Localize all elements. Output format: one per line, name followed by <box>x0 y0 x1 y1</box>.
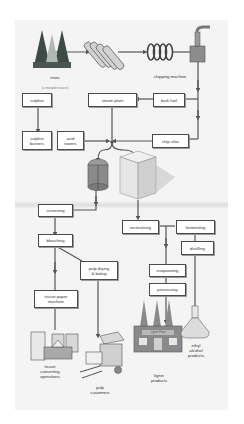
ethyl-alcohol-label: ethyl alcohol products <box>178 343 214 358</box>
digester-icon <box>88 159 108 191</box>
trees-note: (a renewable resource) <box>42 87 69 90</box>
node-chip-silos: chip silos <box>152 134 189 148</box>
node-fermenting: fermenting <box>176 220 215 234</box>
lignin-plant-sign: Lignin Plant <box>142 330 174 335</box>
flow-bleaching-pulpdrying <box>56 246 82 261</box>
lignin-factory-icon <box>134 300 182 352</box>
node-processing: processing <box>149 283 186 296</box>
pulp-customers-label: pulp customers <box>80 385 120 395</box>
forklift-icon <box>80 332 124 378</box>
node-steam-plant: steam plant <box>88 93 137 107</box>
node-sulphur-burners: sulphur burners <box>22 131 52 150</box>
node-acid-towers: acid towers <box>57 131 84 150</box>
node-pulp-drying: pulp drying & baling <box>80 261 118 280</box>
trees-text: trees <box>50 75 59 80</box>
chipping-machine-icon <box>190 27 210 62</box>
flow-to-digester <box>98 143 112 160</box>
tank-icon <box>120 151 175 199</box>
node-neutralising: neutralising <box>122 220 159 234</box>
trees-icon <box>33 30 71 68</box>
trees-label: trees (a renewable resource) <box>30 70 80 91</box>
ethyl-flask-icon <box>181 306 209 338</box>
chipper-drum-icon <box>148 44 173 60</box>
node-bark-fuel: bark fuel <box>153 93 185 107</box>
flow-lines <box>0 0 244 424</box>
node-sulphur: sulphur <box>22 93 52 107</box>
node-tissue-paper-machine: tissue paper machine <box>34 290 78 308</box>
node-evaporating: evaporating <box>149 264 186 277</box>
node-bleaching: bleaching <box>38 234 73 247</box>
node-screening: screening <box>38 204 73 217</box>
chipping-machine-label: chipping machine <box>140 74 200 79</box>
node-distilling: distilling <box>181 241 214 255</box>
tissue-converting-label: tissue converting operations <box>28 364 72 379</box>
logs-icon <box>83 41 125 71</box>
flow-digester-screening <box>72 190 96 210</box>
lignin-products-label: lignin products <box>138 373 180 383</box>
tissue-products-icon <box>31 332 78 360</box>
